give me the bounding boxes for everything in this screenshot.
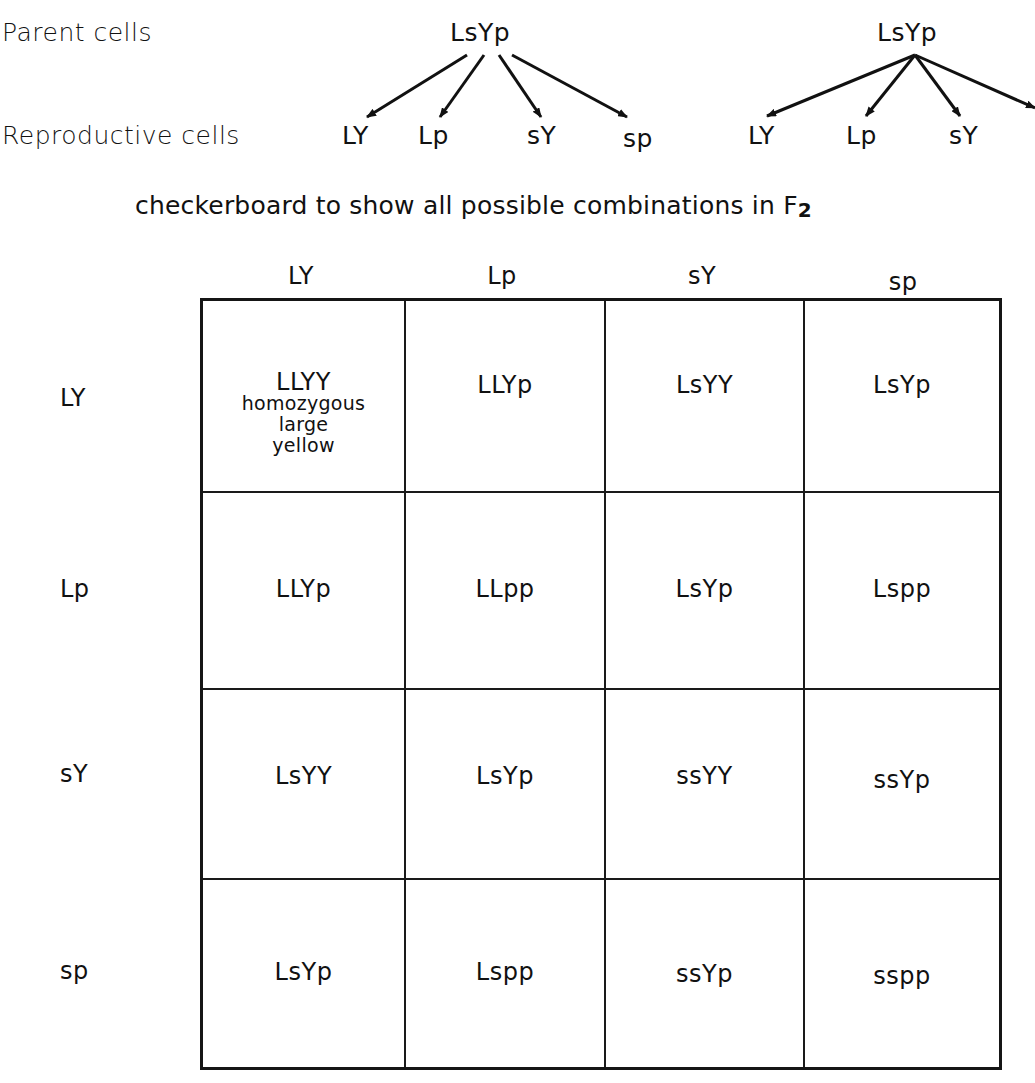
annotation-homozygous: homozygous — [242, 393, 366, 414]
genotype: ssYp — [676, 960, 733, 988]
generation-subscript: 2 — [798, 198, 812, 222]
row-header-sY: sY — [60, 760, 88, 788]
cell-r1-c1: LLYY homozygous large yellow — [203, 301, 406, 493]
cell-r1-c2: LLYp — [406, 301, 606, 493]
arrow-icon — [767, 55, 915, 116]
arrow-icon — [499, 55, 541, 117]
genotype: LLYp — [477, 371, 532, 399]
genotype: LsYp — [676, 575, 734, 603]
cell-r2-c3: LsYp — [606, 493, 805, 690]
gamete-arrows — [0, 0, 1035, 180]
column-header-LY: LY — [241, 262, 361, 290]
annotation-yellow: yellow — [272, 435, 334, 456]
cell-r2-c4: Lspp — [805, 493, 999, 690]
genotype: LsYY — [275, 762, 332, 790]
row-header-LY: LY — [60, 384, 86, 412]
genotype: ssYp — [874, 766, 931, 794]
arrow-icon — [367, 55, 467, 117]
row-header-sp: sp — [60, 957, 89, 985]
cell-r3-c1: LsYY — [203, 690, 406, 880]
cell-r1-c3: LsYY — [606, 301, 805, 493]
column-header-sp: sp — [843, 268, 963, 296]
checkerboard-caption: checkerboard to show all possible combin… — [135, 191, 812, 222]
cell-r4-c3: ssYp — [606, 880, 805, 1067]
cell-r4-c1: LsYp — [203, 880, 406, 1067]
punnett-square: LLYY homozygous large yellow LLYp LsYY L… — [200, 298, 1002, 1070]
caption-text: checkerboard to show all possible combin… — [135, 191, 783, 220]
cell-r4-c2: Lspp — [406, 880, 606, 1067]
row-header-Lp: Lp — [60, 575, 90, 603]
cell-r3-c2: LsYp — [406, 690, 606, 880]
arrow-icon — [512, 55, 627, 117]
cell-r3-c4: ssYp — [805, 690, 999, 880]
generation-label: F — [783, 191, 798, 220]
genotype: sspp — [873, 962, 930, 990]
genotype: LLYY — [276, 371, 331, 393]
genotype: ssYY — [676, 762, 732, 790]
column-header-Lp: Lp — [442, 262, 562, 290]
annotation-large: large — [279, 414, 329, 435]
genotype: Lspp — [873, 575, 931, 603]
cell-r4-c4: sspp — [805, 880, 999, 1067]
genotype: Lspp — [476, 958, 534, 986]
genotype: LsYp — [275, 958, 333, 986]
arrow-icon — [440, 55, 484, 117]
cell-r3-c3: ssYY — [606, 690, 805, 880]
genotype: LsYY — [676, 371, 733, 399]
genotype: LLYp — [276, 575, 331, 603]
cell-r2-c2: LLpp — [406, 493, 606, 690]
genotype: LsYp — [476, 762, 534, 790]
genotype: LLpp — [475, 575, 534, 603]
genotype: LsYp — [873, 371, 931, 399]
cell-r2-c1: LLYp — [203, 493, 406, 690]
cell-r1-c4: LsYp — [805, 301, 999, 493]
column-header-sY: sY — [642, 262, 762, 290]
